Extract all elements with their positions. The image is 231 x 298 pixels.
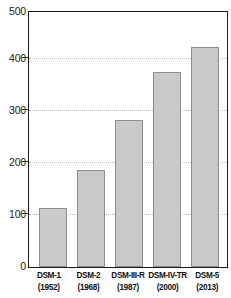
x-category-dsm-iv-tr: DSM-IV-TR (2000) — [148, 270, 188, 293]
bar-slot-dsm-2 — [72, 12, 110, 267]
bar-dsm-2 — [77, 170, 104, 267]
x-category-year: (2013) — [187, 282, 227, 294]
bar-slot-dsm-iii-r — [110, 12, 148, 267]
x-category-label: DSM-5 — [195, 271, 219, 280]
x-category-dsm-2: DSM-2 (1968) — [69, 270, 109, 293]
bar-dsm-1 — [39, 208, 66, 267]
x-category-dsm-5: DSM-5 (2013) — [187, 270, 227, 293]
bar-dsm-iii-r — [115, 120, 142, 267]
y-axis: 500 400 300 200 100 0 — [0, 0, 26, 298]
y-tick-label-0: 0 — [0, 261, 26, 271]
bar-slot-dsm-5 — [186, 12, 224, 267]
x-category-year: (1952) — [29, 282, 69, 294]
x-category-year: (1968) — [69, 282, 109, 294]
bar-dsm-5 — [191, 47, 218, 267]
y-tick-label-300: 300 — [0, 105, 26, 115]
bar-slot-dsm-iv-tr — [148, 12, 186, 267]
plot-area — [28, 11, 228, 268]
x-category-label: DSM-IV-TR — [148, 271, 187, 280]
y-tick-label-500: 500 — [0, 6, 26, 16]
x-category-dsm-iii-r: DSM-III-R (1987) — [108, 270, 148, 293]
x-category-year: (2000) — [148, 282, 188, 294]
x-category-label: DSM-2 — [77, 271, 101, 280]
x-category-label: DSM-III-R — [111, 271, 144, 280]
y-tick-label-400: 400 — [0, 53, 26, 63]
x-axis: DSM-1 (1952) DSM-2 (1968) DSM-III-R (198… — [28, 270, 228, 293]
bar-slot-dsm-1 — [34, 12, 72, 267]
y-tick-label-100: 100 — [0, 209, 26, 219]
bars-layer — [29, 12, 227, 267]
bar-dsm-iv-tr — [153, 72, 180, 267]
x-category-label: DSM-1 — [37, 271, 61, 280]
y-tick-label-200: 200 — [0, 157, 26, 167]
bar-chart: 500 400 300 200 100 0 — [0, 0, 231, 298]
x-category-dsm-1: DSM-1 (1952) — [29, 270, 69, 293]
x-category-year: (1987) — [108, 282, 148, 294]
